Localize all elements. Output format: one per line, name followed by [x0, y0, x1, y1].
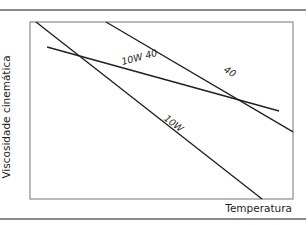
series-line-40 [106, 22, 293, 132]
series-lines [36, 22, 293, 199]
x-axis-label: Temperatura [225, 202, 292, 214]
y-axis-label: Viscosidade cinemática [0, 37, 13, 197]
chart-plot-area [0, 0, 308, 225]
series-line-10w40 [47, 47, 279, 111]
